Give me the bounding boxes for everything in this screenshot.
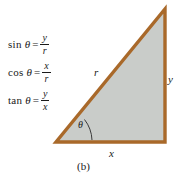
- sine-fraction: y r: [40, 33, 48, 56]
- formula-tangent: tan θ = y x: [8, 86, 70, 114]
- sine-denominator: r: [41, 45, 49, 56]
- tangent-angle-symbol: θ: [25, 94, 30, 106]
- angle-label: θ: [78, 119, 83, 130]
- figure-caption: (b): [77, 160, 90, 172]
- tangent-equals-sign: =: [33, 94, 39, 106]
- vertical-side-label: y: [168, 73, 173, 85]
- trigonometry-figure: sin θ = y r cos θ = x r tan θ = y: [0, 0, 181, 180]
- sine-angle-symbol: θ: [25, 38, 30, 50]
- tangent-function-name: tan: [8, 94, 22, 106]
- trig-formula-list: sin θ = y r cos θ = x r tan θ = y: [8, 30, 70, 114]
- formula-cosine: cos θ = x r: [8, 58, 70, 86]
- sine-function-name: sin: [8, 38, 22, 50]
- cosine-function-name: cos: [8, 66, 24, 78]
- horizontal-side-label: x: [109, 147, 114, 159]
- triangle-shape: [56, 9, 165, 142]
- cosine-angle-symbol: θ: [27, 66, 32, 78]
- cosine-numerator: x: [42, 61, 50, 72]
- tangent-fraction: y x: [41, 89, 49, 112]
- formula-sine: sin θ = y r: [8, 30, 70, 58]
- cosine-fraction: x r: [42, 61, 50, 84]
- sine-equals-sign: =: [32, 38, 38, 50]
- cosine-equals-sign: =: [34, 66, 40, 78]
- tangent-denominator: x: [41, 101, 49, 112]
- cosine-denominator: r: [42, 73, 50, 84]
- hypotenuse-label: r: [94, 66, 98, 78]
- tangent-numerator: y: [41, 89, 49, 100]
- sine-numerator: y: [40, 33, 48, 44]
